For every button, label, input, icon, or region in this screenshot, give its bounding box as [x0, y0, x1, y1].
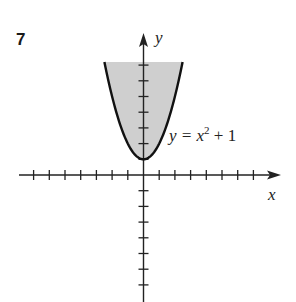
problem-number: 7	[16, 30, 25, 50]
y-axis-label: y	[153, 28, 163, 47]
curve-label: y = x2 + 1	[167, 124, 236, 145]
plot-area: x y y = x2 + 1	[0, 0, 296, 302]
figure: 7 x y y = x2 + 1	[0, 0, 296, 302]
x-axis-label: x	[267, 185, 276, 204]
